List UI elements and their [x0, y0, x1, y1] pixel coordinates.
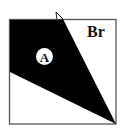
folded-flap — [56, 12, 63, 20]
region-a-label: A — [40, 51, 49, 64]
folded-square-diagram: Br A — [0, 0, 123, 132]
diagram-canvas — [0, 0, 123, 132]
region-br-label: Br — [87, 24, 105, 40]
region-a-badge: A — [36, 48, 53, 65]
